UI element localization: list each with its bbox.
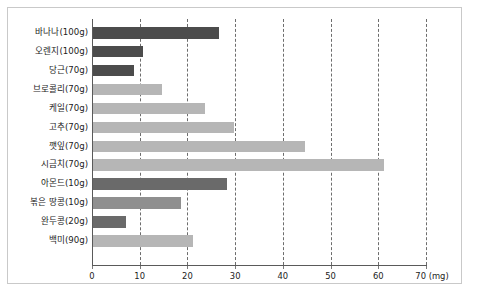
- bar-row: 백미(90g): [93, 232, 427, 250]
- x-tick-50: [331, 266, 332, 269]
- category-label: 바나나(100g): [35, 26, 88, 38]
- category-label: 백미(90g): [49, 234, 88, 246]
- category-label: 오렌지(100g): [35, 45, 88, 57]
- bar: [93, 197, 181, 209]
- bar-row: 시금치(70g): [93, 156, 427, 174]
- bar: [93, 84, 162, 96]
- bar: [93, 235, 193, 247]
- bar: [93, 46, 143, 58]
- x-tick-label-50: 50: [325, 271, 336, 281]
- category-label: 브로콜리(70g): [33, 83, 88, 95]
- category-label: 당근(70g): [49, 64, 88, 76]
- category-label: 아몬드(10g): [41, 177, 88, 189]
- category-label: 고추(70g): [49, 121, 88, 133]
- category-label: 케일(70g): [49, 102, 88, 114]
- category-label: 시금치(70g): [41, 158, 88, 170]
- bar: [93, 178, 227, 190]
- bar-row: 아몬드(10g): [93, 175, 427, 193]
- bar: [93, 103, 205, 115]
- category-label: 볶은 땅콩(10g): [30, 196, 88, 208]
- category-label: 깻잎(70g): [49, 140, 88, 152]
- bar: [93, 65, 134, 77]
- bar: [93, 159, 384, 171]
- chart-figure: 바나나(100g)오렌지(100g)당근(70g)브로콜리(70g)케일(70g…: [7, 7, 462, 284]
- x-tick-60: [378, 266, 379, 269]
- x-tick-label-10: 10: [134, 271, 145, 281]
- bar-row: 고추(70g): [93, 119, 427, 137]
- x-tick-label-60: 60: [373, 271, 384, 281]
- x-tick-70: [426, 266, 427, 269]
- bar-row: 케일(70g): [93, 100, 427, 118]
- bar-row: 브로콜리(70g): [93, 81, 427, 99]
- x-tick-label-20: 20: [182, 271, 193, 281]
- x-tick-10: [140, 266, 141, 269]
- bar-row: 볶은 땅콩(10g): [93, 194, 427, 212]
- category-label: 완두콩(20g): [41, 215, 88, 227]
- plot-area: 바나나(100g)오렌지(100g)당근(70g)브로콜리(70g)케일(70g…: [92, 19, 426, 265]
- bar-row: 당근(70g): [93, 62, 427, 80]
- x-tick-30: [235, 266, 236, 269]
- x-tick-label-0: 0: [89, 271, 94, 281]
- x-tick-label-70: 70 (mg): [415, 271, 448, 281]
- x-tick-20: [187, 266, 188, 269]
- x-tick-40: [283, 266, 284, 269]
- bar: [93, 122, 234, 134]
- bar-row: 깻잎(70g): [93, 138, 427, 156]
- bar-row: 바나나(100g): [93, 24, 427, 42]
- x-tick-label-40: 40: [278, 271, 289, 281]
- bar-row: 완두콩(20g): [93, 213, 427, 231]
- bar: [93, 216, 126, 228]
- x-axis-line: [92, 265, 427, 266]
- x-tick-label-30: 30: [230, 271, 241, 281]
- bar: [93, 141, 305, 153]
- x-tick-0: [92, 266, 93, 269]
- bar-row: 오렌지(100g): [93, 43, 427, 61]
- bar: [93, 27, 219, 39]
